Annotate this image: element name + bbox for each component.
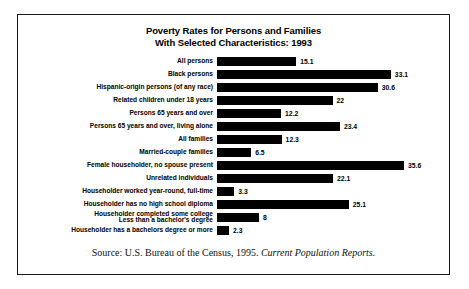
- bar-track: 2.3: [217, 226, 445, 236]
- bar: [217, 96, 333, 106]
- chart-row: Householder has a bachelors degree or mo…: [18, 224, 449, 237]
- chart-row: All families12.3: [18, 133, 449, 146]
- bar-category-label-line-1: Hispanic-origin persons (of any race): [96, 83, 213, 90]
- bar: [217, 174, 333, 184]
- bar-category-label-line-1: Persons 65 years and over: [129, 109, 213, 116]
- bar-category-label: Related children under 18 years: [23, 94, 213, 106]
- bar-category-label-line-1: Householder has a bachelors degree or mo…: [71, 226, 213, 233]
- bar-track: 33.1: [217, 70, 445, 80]
- bar-track: 35.6: [217, 161, 445, 171]
- bar-category-label: Female householder, no spouse present: [23, 159, 213, 171]
- bar-value-label: 25.1: [353, 200, 366, 209]
- bar: [217, 148, 251, 158]
- bar-value-label: 15.1: [300, 57, 313, 66]
- bar-track: 22: [217, 96, 445, 106]
- bar-value-label: 22.1: [337, 174, 350, 183]
- bar-category-label: Black persons: [23, 68, 213, 80]
- bar-value-label: 3.3: [238, 187, 247, 196]
- chart-row: Married-couple families6.5: [18, 146, 449, 159]
- bar-category-label: Householder worked year-round, full-time: [23, 185, 213, 197]
- bar: [217, 109, 281, 119]
- bar-category-label-line-1: All families: [178, 135, 213, 142]
- bar-track: 12.2: [217, 109, 445, 119]
- bar: [217, 161, 404, 171]
- bar: [217, 200, 349, 210]
- bar: [217, 70, 391, 80]
- bar-chart-plot-area: All persons15.1Black persons33.1Hispanic…: [18, 55, 449, 227]
- chart-title-line-1: Poverty Rates for Persons and Families: [18, 25, 449, 37]
- bar-value-label: 12.3: [286, 135, 299, 144]
- bar: [217, 226, 229, 236]
- bar: [217, 135, 282, 145]
- bar-category-label-line-1: All persons: [177, 57, 213, 64]
- bar-category-label-line-1: Persons 65 years and over, living alone: [90, 122, 213, 129]
- chart-row: Householder completed some collegeLess t…: [18, 211, 449, 224]
- bar-track: 15.1: [217, 57, 445, 67]
- bar-category-label: All families: [23, 133, 213, 145]
- bar-category-label-line-2: Less than a bachelor's degree: [23, 217, 213, 223]
- bar-category-label-line-1: Black persons: [168, 70, 213, 77]
- bar-category-label: Persons 65 years and over, living alone: [23, 120, 213, 132]
- bar: [217, 83, 378, 93]
- bar-category-label: Persons 65 years and over: [23, 107, 213, 119]
- source-note: Source: U.S. Bureau of the Census, 1995.…: [18, 247, 449, 258]
- bar-track: 22.1: [217, 174, 445, 184]
- chart-row: Persons 65 years and over12.2: [18, 107, 449, 120]
- bar-value-label: 33.1: [395, 70, 408, 79]
- bar-category-label: Householder completed some collegeLess t…: [23, 211, 213, 224]
- bar-track: 6.5: [217, 148, 445, 158]
- chart-row: Related children under 18 years22: [18, 94, 449, 107]
- chart-row: Householder worked year-round, full-time…: [18, 185, 449, 198]
- bar: [217, 187, 234, 197]
- bar-category-label-line-1: Related children under 18 years: [113, 96, 213, 103]
- chart-row: Hispanic-origin persons (of any race)30.…: [18, 81, 449, 94]
- bar-track: 3.3: [217, 187, 445, 197]
- chart-row: Black persons33.1: [18, 68, 449, 81]
- chart-row: Persons 65 years and over, living alone2…: [18, 120, 449, 133]
- bar-value-label: 30.6: [382, 83, 395, 92]
- bar-value-label: 22: [337, 96, 345, 105]
- bar-category-label-line-1: Female householder, no spouse present: [87, 161, 213, 168]
- bar-track: 8: [217, 213, 445, 223]
- bar-track: 30.6: [217, 83, 445, 93]
- source-prefix: Source: U.S. Bureau of the Census, 1995.: [92, 247, 259, 258]
- bar: [217, 213, 259, 223]
- bar-category-label-line-1: Unrelated individuals: [146, 174, 213, 181]
- chart-title-line-2: With Selected Characteristics: 1993: [18, 37, 449, 49]
- bar-category-label: Married-couple families: [23, 146, 213, 158]
- chart-title: Poverty Rates for Persons and Families W…: [18, 25, 449, 48]
- bar-track: 25.1: [217, 200, 445, 210]
- bar-value-label: 6.5: [255, 148, 264, 157]
- bar-value-label: 2.3: [233, 226, 242, 235]
- bar-value-label: 12.2: [285, 109, 298, 118]
- bar-category-label: Householder has no high school diploma: [23, 198, 213, 210]
- bar-value-label: 23.4: [344, 122, 357, 131]
- bar-track: 12.3: [217, 135, 445, 145]
- bar-category-label: Unrelated individuals: [23, 172, 213, 184]
- bar-category-label: Householder has a bachelors degree or mo…: [23, 224, 213, 236]
- source-publication: Current Population Reports.: [261, 247, 375, 258]
- bar-category-label-line-1: Married-couple families: [139, 148, 213, 155]
- chart-row: Female householder, no spouse present35.…: [18, 159, 449, 172]
- bar-category-label: All persons: [23, 55, 213, 67]
- bar-category-label-line-1: Householder worked year-round, full-time: [82, 187, 213, 194]
- bar-category-label-line-1: Householder has no high school diploma: [84, 200, 213, 207]
- bar: [217, 57, 296, 67]
- bar-value-label: 8: [263, 213, 267, 222]
- bar-value-label: 35.6: [408, 161, 421, 170]
- bar: [217, 122, 340, 132]
- bar-category-label: Hispanic-origin persons (of any race): [23, 81, 213, 93]
- chart-row: Householder has no high school diploma25…: [18, 198, 449, 211]
- bar-track: 23.4: [217, 122, 445, 132]
- chart-figure-frame: Poverty Rates for Persons and Families W…: [17, 14, 450, 275]
- chart-row: Unrelated individuals22.1: [18, 172, 449, 185]
- chart-row: All persons15.1: [18, 55, 449, 68]
